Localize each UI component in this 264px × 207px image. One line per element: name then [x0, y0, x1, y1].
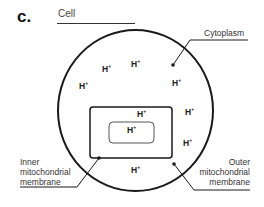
- proton-label: H+: [102, 63, 111, 74]
- proton-label: H+: [79, 80, 88, 91]
- outer-membrane-label: Outer mitochondrial membrane: [194, 157, 250, 187]
- proton-label: H+: [183, 137, 192, 148]
- cytoplasm-label: Cytoplasm: [204, 28, 244, 38]
- proton-label: H+: [131, 58, 140, 69]
- proton-label: H+: [131, 164, 140, 175]
- proton-label-intermembrane: H+: [137, 108, 146, 119]
- cytoplasm-leader: [171, 40, 248, 67]
- proton-label: H+: [185, 106, 194, 117]
- proton-label-matrix: H+: [127, 124, 136, 135]
- proton-label: H+: [172, 77, 181, 88]
- inner-membrane-label: Inner mitochondrial membrane: [20, 157, 71, 187]
